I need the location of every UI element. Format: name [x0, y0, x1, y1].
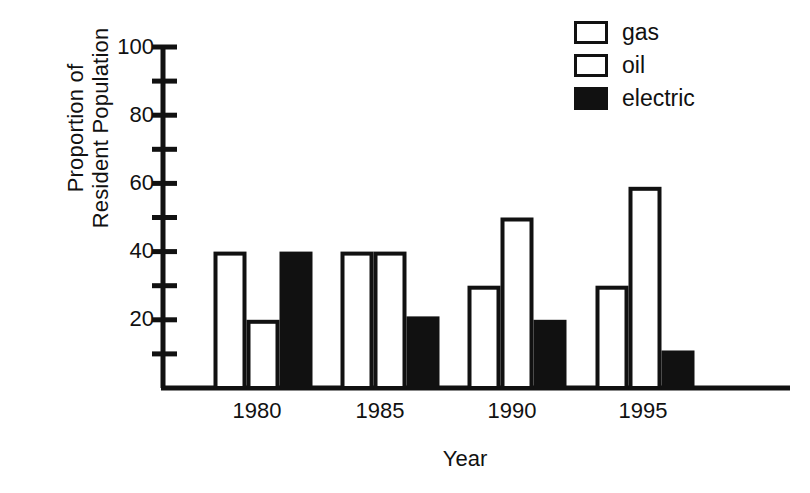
- bar-group-1990: [470, 220, 567, 389]
- bar-gas-1995: [598, 288, 627, 388]
- bar-electric-1990: [534, 320, 567, 388]
- bar-group-1995: [598, 189, 695, 388]
- bar-oil-1985: [376, 254, 405, 388]
- bar-chart: Proportion of Resident Population 100 80…: [0, 0, 810, 493]
- plot-area: [0, 0, 810, 493]
- bar-group-1980: [216, 252, 313, 388]
- bar-series-group: [216, 189, 695, 388]
- bar-gas-1990: [470, 288, 499, 388]
- bar-oil-1990: [503, 220, 532, 389]
- bar-gas-1980: [216, 254, 245, 388]
- bar-electric-1985: [407, 316, 440, 388]
- bar-oil-1995: [631, 189, 660, 388]
- bar-electric-1995: [662, 350, 695, 388]
- bar-oil-1980: [249, 322, 278, 388]
- bar-electric-1980: [280, 252, 313, 388]
- bar-gas-1985: [343, 254, 372, 388]
- bar-group-1985: [343, 254, 440, 388]
